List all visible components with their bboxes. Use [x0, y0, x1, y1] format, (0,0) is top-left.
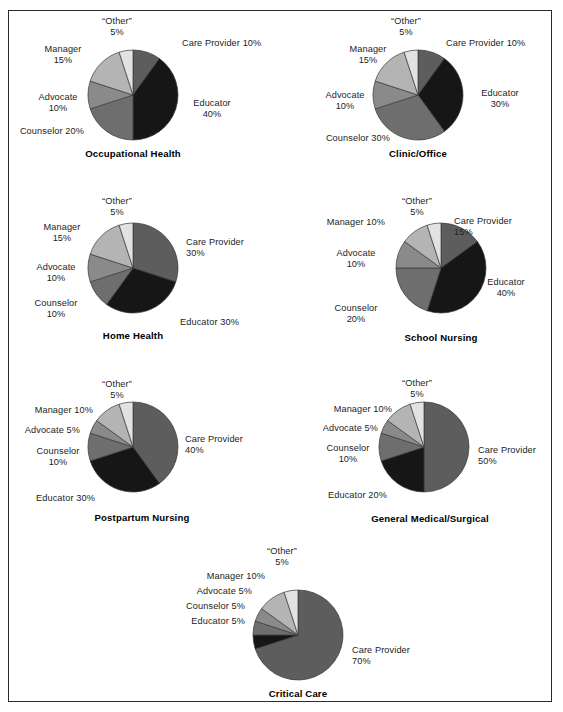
pie-chart: [371, 48, 465, 142]
pie-chart: [377, 400, 471, 494]
pie-slice-care-provider[interactable]: [424, 402, 469, 492]
pie-chart: [86, 221, 180, 315]
pie-chart: [394, 221, 488, 315]
pie-chart: [86, 400, 180, 494]
pie-chart: [86, 48, 180, 142]
pie-chart: [251, 588, 345, 682]
